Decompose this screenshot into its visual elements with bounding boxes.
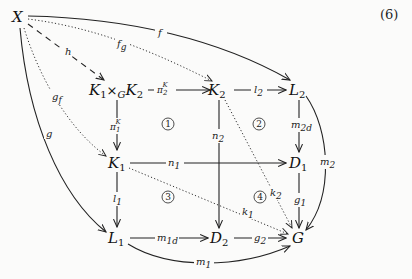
region-1-marker: 1	[162, 118, 174, 130]
label-k1: k1	[240, 205, 256, 220]
label-pi1K: π1K	[108, 118, 128, 134]
svg-text:3: 3	[165, 192, 171, 202]
node-L1: L1	[107, 229, 124, 248]
label-m1d: m1d	[155, 231, 179, 246]
node-K2: K2	[207, 81, 226, 100]
diagram-canvas: (6) f fg h gf g π2K π1K l2 n2	[0, 0, 412, 279]
node-D2: D2	[209, 229, 228, 248]
region-3-marker: 3	[162, 191, 174, 203]
node-L2: L2	[288, 81, 305, 100]
label-g: g	[46, 128, 52, 139]
node-X: X	[11, 8, 24, 26]
node-K1xGK2: K1×GK2	[88, 81, 143, 100]
label-l2: l2	[251, 83, 267, 98]
label-g1: g1	[292, 193, 308, 208]
label-m2: m2	[318, 155, 338, 170]
svg-text:4: 4	[257, 192, 263, 202]
node-K1: K1	[107, 154, 126, 173]
equation-number: (6)	[380, 7, 398, 22]
label-g2: g2	[252, 231, 268, 246]
svg-text:1: 1	[165, 119, 171, 129]
svg-text:2: 2	[256, 119, 262, 129]
label-m2d: m2d	[289, 118, 313, 133]
label-n1: n1	[166, 156, 184, 171]
label-n2: n2	[210, 129, 228, 144]
label-l1: l1	[111, 192, 125, 207]
label-gf: gf	[50, 90, 66, 105]
commutative-diagram: (6) f fg h gf g π2K π1K l2 n2	[0, 0, 412, 279]
arrow-g	[20, 28, 106, 232]
label-k2: k2	[268, 186, 284, 201]
label-fg: fg	[115, 38, 129, 52]
region-4-marker: 4	[254, 191, 266, 203]
region-2-marker: 2	[253, 118, 265, 130]
node-G: G	[292, 229, 304, 247]
label-pi2K: π2K	[154, 81, 176, 98]
label-h: h	[65, 46, 71, 57]
node-D1: D1	[288, 154, 307, 173]
label-m1: m1	[194, 255, 214, 270]
